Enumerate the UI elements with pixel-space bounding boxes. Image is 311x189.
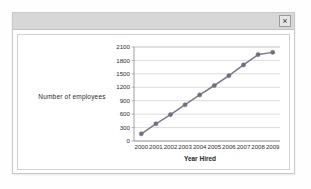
x-axis-label: Year Hired	[114, 155, 286, 162]
data-point-marker	[227, 74, 231, 78]
data-point-marker	[271, 50, 275, 54]
data-point-marker	[256, 53, 260, 57]
data-point-marker	[154, 122, 158, 126]
data-point-marker	[168, 112, 172, 116]
data-point-marker	[198, 93, 202, 97]
y-tick-label: 900	[120, 97, 131, 104]
data-point-marker	[183, 103, 187, 107]
data-point-marker	[139, 132, 143, 136]
y-tick-label: 300	[120, 124, 131, 131]
plot-area: 0300600900120015001800210020002001200220…	[104, 41, 284, 167]
series-line	[141, 52, 272, 133]
y-tick-label: 1500	[116, 70, 130, 77]
data-point-marker	[212, 83, 216, 87]
window-titlebar: ×	[13, 13, 294, 30]
x-tick-label: 2004	[193, 143, 207, 150]
data-point-marker	[241, 63, 245, 67]
close-icon[interactable]: ×	[279, 15, 291, 27]
y-tick-label: 600	[120, 110, 131, 117]
line-chart: 0300600900120015001800210020002001200220…	[104, 41, 284, 167]
x-tick-label: 2000	[135, 143, 149, 150]
x-tick-label: 2001	[149, 143, 163, 150]
y-tick-label: 1200	[116, 83, 130, 90]
chart-window: × Number of employees 030060090012001500…	[12, 12, 295, 174]
x-tick-label: 2008	[251, 143, 265, 150]
x-tick-label: 2006	[222, 143, 236, 150]
x-tick-label: 2005	[208, 143, 222, 150]
chart-figure: Number of employees 03006009001200150018…	[18, 35, 289, 169]
x-tick-label: 2003	[178, 143, 192, 150]
y-tick-label: 0	[127, 137, 131, 144]
chart-panel-body: Number of employees 03006009001200150018…	[17, 34, 290, 170]
y-tick-label: 1800	[116, 57, 130, 64]
x-tick-label: 2009	[266, 143, 280, 150]
screenshot-root: × Number of employees 030060090012001500…	[0, 0, 311, 189]
y-tick-label: 2100	[116, 43, 130, 50]
x-tick-label: 2007	[237, 143, 251, 150]
x-tick-label: 2002	[164, 143, 178, 150]
